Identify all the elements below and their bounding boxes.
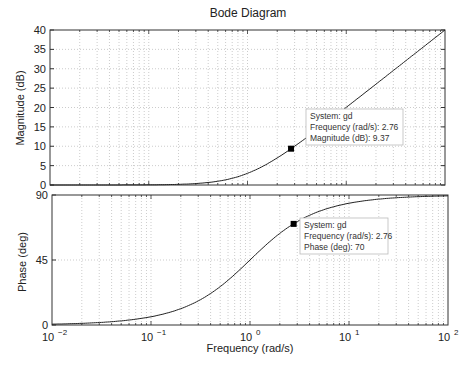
y-tick-label: 10: [34, 140, 46, 152]
frequency-x-ticks: 10−210−1100101102: [42, 328, 459, 343]
frequency-xlabel: Frequency (rad/s): [207, 342, 294, 354]
magnitude-ylabel: Magnitude (dB): [14, 70, 26, 145]
phase-y-ticks: 04590: [36, 189, 56, 331]
y-tick-label: 5: [40, 160, 46, 172]
y-tick-label: 45: [36, 254, 48, 266]
datatip-phase: Phase (deg): 70: [304, 242, 365, 252]
y-tick-label: 20: [34, 102, 46, 114]
x-tick-exponent: −1: [157, 328, 167, 337]
x-tick-exponent: −2: [58, 328, 68, 337]
y-tick-label: 90: [36, 189, 48, 201]
y-tick-label: 30: [34, 63, 46, 75]
y-tick-label: 35: [34, 43, 46, 55]
phase-datatip-marker[interactable]: [291, 221, 297, 227]
y-tick-label: 15: [34, 121, 46, 133]
datatip-system: System: gd: [310, 111, 353, 121]
phase-axes: 04590 10−210−1100101102 Phase (deg) Syst…: [16, 189, 459, 343]
magnitude-axes: 0510152025303540 Magnitude (dB) System: …: [14, 24, 445, 191]
x-tick-label: 10: [141, 331, 153, 343]
datatip-frequency: Frequency (rad/s): 2.76: [304, 231, 393, 241]
y-tick-label: 25: [34, 82, 46, 94]
datatip-frequency: Frequency (rad/s): 2.76: [310, 122, 399, 132]
magnitude-datatip-marker[interactable]: [288, 146, 294, 152]
magnitude-datatip[interactable]: System: gd Frequency (rad/s): 2.76 Magni…: [288, 109, 403, 152]
x-tick-exponent: 1: [355, 328, 360, 337]
datatip-magnitude: Magnitude (dB): 9.37: [310, 133, 390, 143]
y-tick-label: 0: [42, 319, 48, 331]
magnitude-grid: [50, 30, 445, 185]
bode-figure: Bode Diagram 0510152025303540 Magnitude …: [0, 0, 469, 367]
x-tick-label: 10: [438, 331, 450, 343]
x-tick-label: 10: [42, 331, 54, 343]
x-tick-exponent: 2: [454, 328, 459, 337]
x-tick-exponent: 0: [256, 328, 261, 337]
x-tick-label: 10: [339, 331, 351, 343]
chart-title: Bode Diagram: [210, 6, 287, 20]
magnitude-axes-box: [50, 30, 445, 185]
phase-datatip[interactable]: System: gd Frequency (rad/s): 2.76 Phase…: [291, 218, 393, 254]
phase-ylabel: Phase (deg): [16, 232, 28, 292]
magnitude-curve: [50, 30, 445, 185]
datatip-system: System: gd: [304, 220, 347, 230]
y-tick-label: 40: [34, 24, 46, 36]
